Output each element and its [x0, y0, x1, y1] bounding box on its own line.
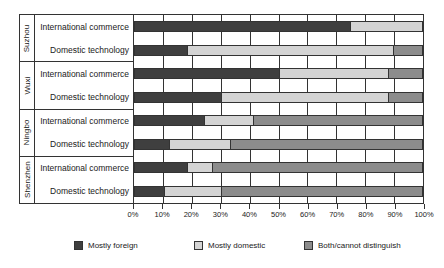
bar-segment [230, 140, 422, 149]
x-tick [337, 204, 338, 209]
legend-item[interactable]: Both/cannot distinguish [304, 241, 401, 250]
x-tick [133, 204, 134, 209]
city-name: Suzhou [23, 24, 32, 52]
stacked-bar [134, 162, 423, 173]
bar-segment [388, 69, 422, 78]
x-tick [249, 204, 250, 209]
legend-label: Mostly domestic [208, 241, 265, 250]
bar-segment [169, 140, 229, 149]
category-axis: International commerce Domestic technolo… [35, 15, 134, 203]
bar-segment [187, 46, 394, 55]
city-group-label: Suzhou [20, 15, 34, 61]
x-tick [279, 204, 280, 209]
bar-segment [135, 69, 279, 78]
x-tick-label: 40% [242, 210, 257, 219]
stacked-bar [134, 68, 423, 79]
bar-segment [135, 163, 187, 172]
x-tick [395, 204, 396, 209]
bar-segment [393, 46, 422, 55]
city-group-label: Ningbo [20, 109, 34, 156]
stacked-bar [134, 45, 423, 56]
category-label: Domestic technology [35, 38, 133, 61]
plot-frame: Suzhou Wuxi Ningbo Shenzhen Internationa… [19, 14, 424, 204]
legend-swatch [304, 241, 313, 250]
category-label: Domestic technology [35, 133, 133, 156]
bar-segment [135, 187, 164, 196]
bar-segment [135, 116, 204, 125]
bar-segment [221, 93, 387, 102]
bar-segment [253, 116, 422, 125]
bar-segment [388, 93, 422, 102]
city-group-label: Wuxi [20, 61, 34, 108]
bar-segment [135, 140, 169, 149]
category-label: International commerce [35, 15, 133, 38]
bar-segment [212, 163, 422, 172]
legend-item[interactable]: Mostly foreign [74, 241, 138, 250]
category-label: International commerce [35, 156, 133, 180]
x-tick-label: 90% [387, 210, 402, 219]
x-tick-label: 60% [300, 210, 315, 219]
bar-row [134, 180, 423, 204]
city-name: Ningbo [23, 120, 32, 146]
x-tick [424, 204, 425, 209]
legend-swatch [74, 241, 83, 250]
bar-segment [204, 116, 253, 125]
bar-segment [350, 22, 422, 31]
x-tick-label: 100% [414, 210, 433, 219]
x-tick [366, 204, 367, 209]
city-name: Wuxi [23, 76, 32, 94]
x-tick [162, 204, 163, 209]
x-tick-label: 10% [155, 210, 170, 219]
bar-row [134, 133, 423, 157]
bar-row [134, 62, 423, 86]
legend-label: Both/cannot distinguish [318, 241, 401, 250]
x-tick-label: 20% [184, 210, 199, 219]
bar-segment [279, 69, 388, 78]
city-axis: Suzhou Wuxi Ningbo Shenzhen [20, 15, 35, 203]
x-tick-label: 30% [213, 210, 228, 219]
city-group-label: Shenzhen [20, 156, 34, 203]
bar-row [134, 39, 423, 63]
category-label: Domestic technology [35, 85, 133, 108]
category-label: Domestic technology [35, 180, 133, 203]
bar-segment [164, 187, 221, 196]
x-tick-label: 50% [271, 210, 286, 219]
stacked-bar [134, 92, 423, 103]
bar-segment [187, 163, 213, 172]
city-name: Shenzhen [23, 161, 32, 198]
stacked-bar [134, 115, 423, 126]
chart-legend: Mostly foreignMostly domesticBoth/cannot… [19, 238, 425, 252]
bar-row [134, 156, 423, 180]
category-label: International commerce [35, 109, 133, 133]
bar-segment [135, 46, 187, 55]
bar-segment [135, 22, 350, 31]
x-tick-label: 0% [128, 210, 139, 219]
stacked-bar-chart: Suzhou Wuxi Ningbo Shenzhen Internationa… [0, 0, 444, 268]
legend-item[interactable]: Mostly domestic [194, 241, 265, 250]
x-tick-label: 80% [358, 210, 373, 219]
bar-row [134, 15, 423, 39]
stacked-bar [134, 21, 423, 32]
bar-segment [135, 93, 221, 102]
bar-row [134, 109, 423, 133]
x-tick [308, 204, 309, 209]
x-tick-label: 70% [329, 210, 344, 219]
category-label: International commerce [35, 61, 133, 85]
x-axis-labels: 0%10%20%30%40%50%60%70%80%90%100% [133, 210, 424, 222]
stacked-bar [134, 186, 423, 197]
stacked-bar [134, 139, 423, 150]
x-tick [191, 204, 192, 209]
plot-area [134, 15, 423, 203]
legend-swatch [194, 241, 203, 250]
bar-segment [221, 187, 422, 196]
x-tick [220, 204, 221, 209]
bar-row [134, 86, 423, 110]
legend-label: Mostly foreign [88, 241, 138, 250]
